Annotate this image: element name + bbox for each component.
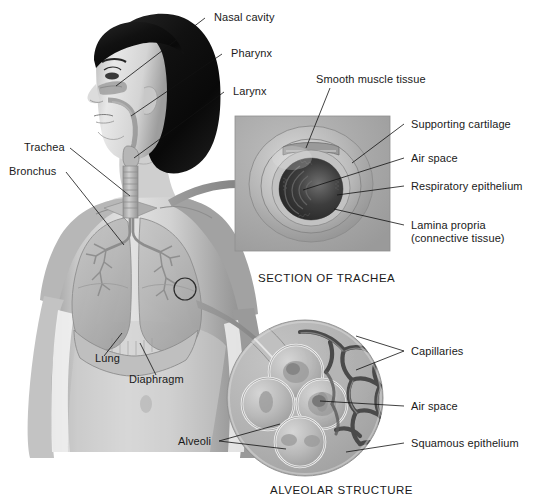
- label-trachea: Trachea: [24, 141, 65, 154]
- caption-alveolar-structure: ALVEOLAR STRUCTURE: [270, 484, 413, 496]
- label-pharynx: Pharynx: [231, 47, 272, 60]
- body-illustration: [0, 0, 534, 502]
- label-squamous-epithelium: Squamous epithelium: [411, 437, 519, 450]
- label-lung: Lung: [95, 352, 120, 365]
- alveolar-structure-panel: [227, 318, 386, 476]
- arrow-to-trachea-section: [168, 172, 256, 207]
- respiratory-system-figure: Nasal cavity Pharynx Larynx Trachea Bron…: [0, 0, 534, 502]
- label-air-space-alveoli: Air space: [411, 400, 458, 413]
- arrow-to-alveolar-structure: [196, 300, 278, 362]
- trachea-section-panel: [235, 116, 390, 251]
- label-supporting-cartilage: Supporting cartilage: [411, 118, 511, 131]
- airway-nasal-pharynx-larynx: [98, 81, 157, 218]
- lung-detail-circle-marker: [174, 278, 196, 300]
- label-diaphragm: Diaphragm: [129, 373, 184, 386]
- bronchiole: [238, 318, 294, 370]
- label-capillaries: Capillaries: [411, 345, 463, 358]
- label-smooth-muscle-tissue: Smooth muscle tissue: [316, 73, 426, 86]
- label-larynx: Larynx: [233, 85, 267, 98]
- body-torso: [28, 148, 266, 458]
- head-and-face: [87, 14, 220, 174]
- label-bronchus: Bronchus: [9, 165, 56, 178]
- lungs-and-bronchi: [72, 218, 202, 376]
- label-air-space-trachea: Air space: [411, 152, 458, 165]
- smooth-muscle-band: [283, 143, 339, 156]
- label-nasal-cavity: Nasal cavity: [214, 11, 275, 24]
- label-respiratory-epithelium: Respiratory epithelium: [411, 180, 523, 193]
- capillary-network: [300, 332, 386, 448]
- label-alveoli: Alveoli: [178, 435, 211, 448]
- caption-section-of-trachea: SECTION OF TRACHEA: [258, 272, 395, 284]
- label-lamina-propria-connective-tissue: (connective tissue): [411, 232, 505, 245]
- label-lamina-propria: Lamina propria: [411, 219, 486, 232]
